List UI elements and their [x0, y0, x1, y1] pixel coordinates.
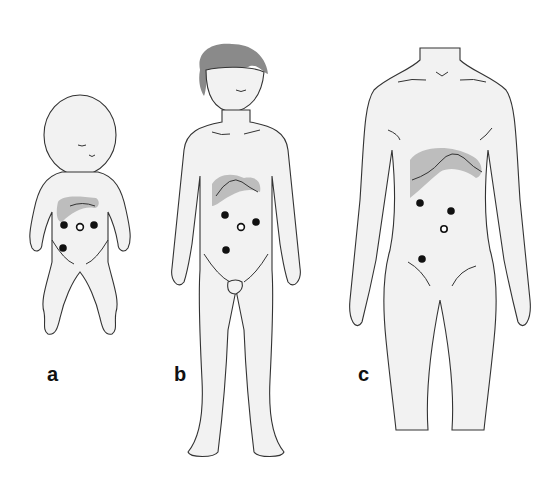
port-filled-1 — [221, 211, 229, 219]
adult-torso — [350, 48, 531, 430]
port-filled-1 — [416, 199, 424, 207]
panel-b-child — [172, 44, 301, 457]
port-filled-3 — [59, 244, 67, 252]
port-filled-1 — [60, 221, 68, 229]
port-open — [441, 226, 447, 232]
panel-a-infant — [30, 95, 130, 334]
figure: a b c — [0, 0, 556, 477]
panel-c-adult — [350, 48, 531, 430]
port-open — [77, 224, 84, 231]
infant-body — [30, 172, 130, 334]
port-filled-3 — [222, 246, 230, 254]
infant-head — [44, 95, 116, 175]
panel-label-c: c — [358, 363, 369, 386]
port-filled-2 — [90, 221, 98, 229]
port-filled-2 — [252, 218, 260, 226]
panel-label-b: b — [174, 363, 186, 386]
illustration — [0, 0, 556, 477]
port-open — [238, 224, 245, 231]
port-filled-3 — [418, 255, 426, 263]
panel-label-a: a — [47, 363, 58, 386]
port-filled-2 — [447, 207, 455, 215]
child-head — [206, 67, 264, 112]
